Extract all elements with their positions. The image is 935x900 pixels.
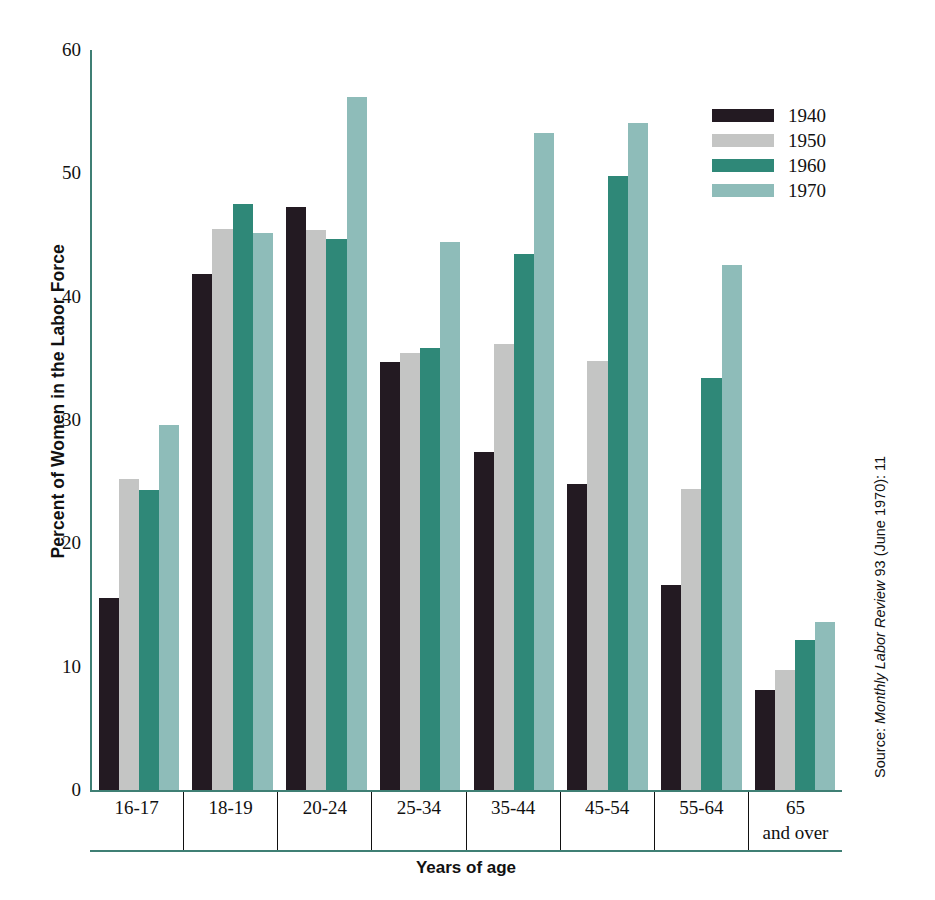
bar-group — [467, 50, 561, 790]
bar-1960 — [514, 254, 534, 791]
bar-1970 — [534, 133, 554, 790]
source-publication: Monthly Labor Review — [872, 581, 888, 724]
legend-label: 1950 — [788, 130, 826, 152]
bar-1960 — [701, 378, 721, 790]
bar-1950 — [400, 353, 420, 790]
legend-item: 1960 — [712, 153, 872, 178]
legend-swatch-icon — [712, 184, 774, 197]
bar-1950 — [681, 489, 701, 790]
bar-1970 — [815, 622, 835, 790]
bar-1950 — [306, 230, 326, 790]
legend-item: 1970 — [712, 178, 872, 203]
bar-1960 — [233, 204, 253, 790]
category-cell: 35-44 — [466, 792, 560, 850]
bar-1940 — [661, 585, 681, 790]
bar-1960 — [420, 348, 440, 790]
bar-1970 — [440, 242, 460, 790]
bar-1940 — [567, 484, 587, 790]
category-label: 65 and over — [749, 795, 842, 845]
category-label: 45-54 — [561, 795, 654, 820]
y-tick-label: 0 — [72, 779, 82, 801]
chart-figure: Percent of Women in the Labor Force 0102… — [0, 0, 935, 900]
bar-1940 — [99, 598, 119, 790]
bar-1940 — [755, 690, 775, 790]
category-label: 25-34 — [372, 795, 465, 820]
bar-group — [373, 50, 467, 790]
bar-1960 — [795, 640, 815, 790]
bar-1960 — [139, 490, 159, 790]
bar-1940 — [474, 452, 494, 790]
x-axis-title: Years of age — [90, 858, 842, 878]
category-cell: 18-19 — [183, 792, 277, 850]
bar-1950 — [119, 479, 139, 790]
bar-1960 — [326, 239, 346, 790]
y-tick-label: 10 — [62, 655, 81, 677]
y-tick-label: 20 — [62, 532, 81, 554]
bar-1960 — [608, 176, 628, 790]
legend-swatch-icon — [712, 159, 774, 172]
bar-1950 — [587, 361, 607, 790]
bar-1940 — [286, 207, 306, 790]
legend-label: 1960 — [788, 155, 826, 177]
bar-1970 — [628, 123, 648, 790]
bar-group — [92, 50, 186, 790]
bar-1970 — [347, 97, 367, 790]
y-tick-label: 40 — [62, 285, 81, 307]
legend-label: 1940 — [788, 105, 826, 127]
bar-group — [561, 50, 655, 790]
bar-1970 — [722, 265, 742, 790]
source-prefix: Source: — [872, 724, 888, 778]
category-cell: 45-54 — [560, 792, 654, 850]
legend: 1940195019601970 — [712, 103, 872, 203]
legend-item: 1940 — [712, 103, 872, 128]
legend-swatch-icon — [712, 109, 774, 122]
category-label: 18-19 — [184, 795, 277, 820]
category-axis: 16-1718-1920-2425-3435-4445-5455-6465 an… — [90, 792, 842, 852]
legend-item: 1950 — [712, 128, 872, 153]
category-cell: 55-64 — [654, 792, 748, 850]
category-label: 16-17 — [90, 795, 183, 820]
y-tick-label: 30 — [62, 409, 81, 431]
bar-1950 — [494, 344, 514, 790]
category-label: 35-44 — [467, 795, 560, 820]
bar-1940 — [380, 362, 400, 790]
y-tick-label: 50 — [62, 162, 81, 184]
bar-1970 — [159, 425, 179, 790]
bar-1940 — [192, 274, 212, 790]
category-cell: 25-34 — [371, 792, 465, 850]
category-cell: 65 and over — [748, 792, 842, 850]
bar-group — [186, 50, 280, 790]
bar-1950 — [212, 229, 232, 790]
source-suffix: 93 (June 1970): 11 — [872, 456, 888, 581]
category-label: 55-64 — [655, 795, 748, 820]
bar-1950 — [775, 670, 795, 790]
category-cell: 16-17 — [90, 792, 183, 850]
source-note: Source: Monthly Labor Review 93 (June 19… — [872, 418, 888, 778]
y-tick-label: 60 — [62, 39, 81, 61]
bar-1970 — [253, 233, 273, 790]
legend-swatch-icon — [712, 134, 774, 147]
category-cell: 20-24 — [277, 792, 371, 850]
category-label: 20-24 — [278, 795, 371, 820]
legend-label: 1970 — [788, 180, 826, 202]
bar-group — [280, 50, 374, 790]
